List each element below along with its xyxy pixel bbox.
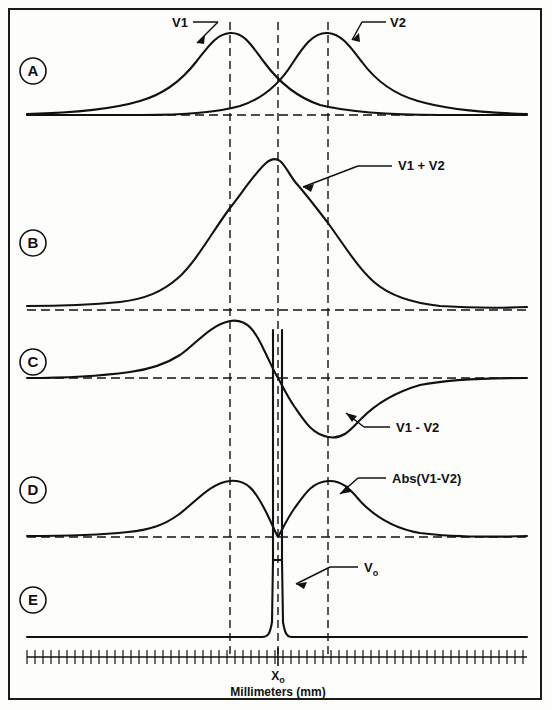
- curve-abs: [27, 481, 527, 537]
- leader-sum-arrow-shaft: [303, 166, 358, 187]
- curve-label-sum: V1 + V2: [398, 158, 445, 173]
- figure-root: A V1 V2 B V1 + V2: [0, 0, 552, 710]
- curve-label-diff: V1 - V2: [396, 420, 439, 435]
- panel-b: B V1 + V2: [20, 158, 527, 310]
- panel-letter-a: A: [28, 62, 39, 79]
- panel-letter-e: E: [28, 591, 38, 608]
- panel-letter-c: C: [28, 353, 39, 370]
- vo-annotation: Vo: [296, 560, 379, 589]
- x0-label-main: X: [271, 669, 279, 683]
- curve-sum: [27, 159, 527, 308]
- vo-label-main: V: [364, 560, 373, 575]
- curve-vo: [27, 560, 527, 637]
- panel-a: A V1 V2: [20, 15, 527, 115]
- curve-v2: [27, 33, 527, 115]
- curve-label-vo: Vo: [364, 560, 379, 578]
- figure-plot-area: A V1 V2 B V1 + V2: [0, 0, 552, 710]
- curve-label-abs: Abs(V1-V2): [392, 471, 461, 486]
- curve-v1: [27, 33, 527, 115]
- arrowhead-v1: [197, 35, 205, 44]
- curve-label-v2: V2: [390, 15, 406, 30]
- vo-label-sub: o: [373, 568, 379, 578]
- panel-e: E: [20, 560, 527, 637]
- curve-diff: [27, 321, 527, 438]
- curve-label-v1: V1: [172, 15, 188, 30]
- panel-letter-b: B: [28, 234, 39, 251]
- panel-letter-d: D: [28, 481, 39, 498]
- x-axis-title: Millimeters (mm): [230, 685, 325, 699]
- x0-label-sub: o: [279, 675, 285, 685]
- leader-vo-arrow-shaft: [296, 567, 330, 584]
- x-axis: Xo Millimeters (mm): [27, 648, 527, 699]
- x0-label: Xo: [271, 669, 285, 685]
